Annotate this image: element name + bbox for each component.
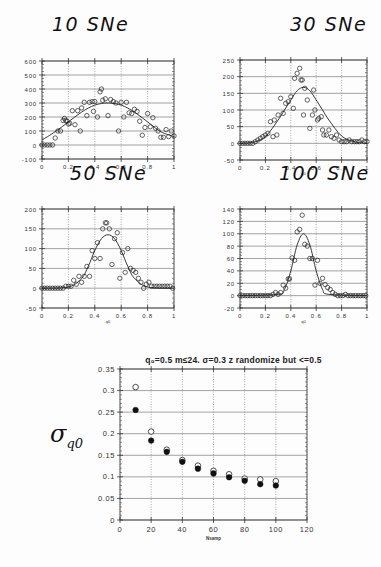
x-tick-label: 0	[40, 164, 44, 170]
data-point	[118, 276, 122, 280]
data-point	[276, 113, 280, 117]
x-tick-label: 0	[40, 313, 44, 319]
y-tick-label: 500	[25, 73, 37, 79]
data-point	[140, 133, 144, 137]
y-tick-label: 0	[110, 516, 115, 525]
data-point	[79, 280, 83, 284]
open-point	[133, 384, 139, 390]
plot-frame	[42, 209, 174, 308]
filled-point	[226, 474, 232, 480]
data-point	[90, 248, 94, 252]
data-point	[272, 118, 276, 122]
y-tick-label: 0.35	[98, 365, 115, 374]
y-tick-label: 200	[25, 207, 37, 213]
y-tick-label: 100	[223, 231, 235, 237]
chart-p4: 100 SNe140120100806040200-2000.20.40.60.…	[223, 162, 370, 324]
y-tick-label: 150	[223, 91, 235, 97]
x-tick-label: 80	[240, 525, 250, 534]
x-axis-label: Nsamp	[206, 536, 221, 541]
y-tick-label: 0.1	[103, 472, 115, 481]
y-tick-label: 0	[231, 293, 235, 299]
open-point	[148, 429, 154, 435]
y-tick-label: 200	[223, 74, 235, 80]
data-point	[75, 109, 79, 113]
data-point	[77, 274, 81, 278]
data-point	[98, 256, 102, 260]
data-point	[148, 125, 152, 129]
data-point	[275, 133, 279, 137]
y-tick-label: -50	[26, 306, 37, 312]
filled-point	[273, 483, 279, 489]
y-tick-label: 80	[227, 244, 235, 250]
data-point	[281, 283, 285, 287]
x-tick-label: 0.2	[260, 313, 271, 319]
chart-title: 30 SNe	[290, 13, 367, 35]
model-curve	[240, 234, 367, 296]
y-tick-label: 0	[33, 143, 37, 149]
data-point	[295, 230, 299, 234]
x-tick-label: 0.6	[311, 313, 322, 319]
x-tick-label: 0	[118, 525, 123, 534]
data-point	[79, 106, 83, 110]
data-point	[71, 278, 75, 282]
x-tick-label: 0	[238, 165, 242, 171]
data-point	[311, 88, 315, 92]
x-tick-label: 0.4	[89, 313, 100, 319]
data-point	[136, 276, 140, 280]
y-tick-label: 0.25	[98, 408, 115, 417]
y-tick-label: 60	[227, 256, 235, 262]
data-point	[124, 100, 128, 104]
y-tick-label: 100	[223, 108, 235, 114]
x-tick-label: 0.4	[285, 313, 296, 319]
data-point	[103, 97, 107, 101]
data-point	[295, 71, 299, 75]
data-point	[73, 123, 77, 127]
y-tick-label: 40	[227, 268, 235, 274]
chart-title: 50 SNe	[70, 162, 147, 184]
data-point	[70, 109, 74, 113]
data-point	[305, 98, 309, 102]
y-tick-label: -100	[22, 157, 37, 163]
data-point	[343, 292, 347, 296]
data-point	[98, 90, 102, 94]
x-tick-label: 0	[238, 313, 242, 319]
data-point	[115, 231, 119, 235]
data-point	[123, 270, 127, 274]
figure-canvas: 10 SNe6005004003002001000-10000.20.40.60…	[0, 0, 381, 567]
y-tick-label: 300	[25, 101, 37, 107]
y-tick-label: 200	[25, 115, 37, 121]
chart-title: q₀=0.5 m≤24. σ=0.3 z randomize but <=0.5	[145, 355, 321, 365]
y-tick-label: 20	[227, 281, 235, 287]
y-tick-label: 100	[25, 246, 37, 252]
model-curve	[42, 103, 174, 140]
data-point	[278, 96, 282, 100]
data-point	[87, 274, 91, 278]
y-tick-label: 50	[227, 124, 235, 130]
data-point	[110, 262, 114, 266]
x-tick-label: 0.8	[142, 313, 153, 319]
y-tick-label: 0	[33, 286, 37, 292]
filled-point	[133, 407, 139, 413]
x-tick-label: 20	[146, 525, 156, 534]
chart-sigma-vs-nsamp: q₀=0.5 m≤24. σ=0.3 z randomize but <=0.5…	[98, 355, 322, 541]
y-tick-label: 250	[223, 58, 235, 64]
data-point	[130, 111, 134, 115]
x-tick-label: 120	[300, 525, 314, 534]
data-point	[82, 100, 86, 104]
data-point	[320, 128, 324, 132]
x-tick-label: 60	[209, 525, 219, 534]
filled-point	[211, 471, 217, 477]
plot-frame	[42, 61, 174, 159]
y-tick-label: 150	[25, 226, 37, 232]
data-point	[297, 227, 301, 231]
bottom-ylabel: σq0	[50, 420, 83, 451]
filled-point	[164, 449, 170, 455]
filled-point	[195, 466, 201, 472]
data-point	[161, 135, 165, 139]
x-tick-label: 0.2	[260, 165, 271, 171]
x-axis-label: q0	[106, 319, 111, 324]
x-tick-label: 1	[365, 313, 369, 319]
data-point	[297, 66, 301, 70]
y-tick-label: 0.2	[103, 429, 115, 438]
model-curve	[240, 87, 367, 143]
